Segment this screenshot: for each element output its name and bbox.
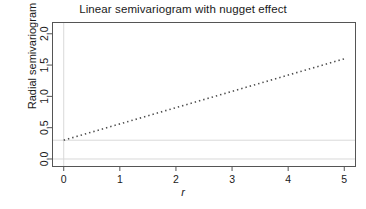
y-tick-label: 1.0	[39, 89, 51, 104]
frame-rect	[53, 23, 356, 167]
plot-canvas: 012345 0.00.51.01.52.0	[0, 0, 366, 209]
y-tick-label: 0.5	[39, 120, 51, 135]
semivariogram-line	[64, 59, 345, 140]
x-tick-label: 5	[341, 173, 347, 185]
x-tick-label: 0	[61, 173, 67, 185]
y-axis: 0.00.51.01.52.0	[39, 26, 53, 166]
y-tick-label: 2.0	[39, 26, 51, 41]
x-tick-label: 3	[229, 173, 235, 185]
x-tick-label: 2	[173, 173, 179, 185]
x-axis: 012345	[61, 167, 348, 185]
y-tick-label: 1.5	[39, 58, 51, 73]
chart-figure: Linear semivariogram with nugget effect …	[0, 0, 366, 209]
x-tick-label: 1	[117, 173, 123, 185]
plot-frame	[53, 23, 356, 167]
reference-lines	[53, 23, 356, 167]
x-tick-label: 4	[285, 173, 291, 185]
semivariogram-dotted-path	[64, 59, 345, 140]
y-tick-label: 0.0	[39, 152, 51, 167]
